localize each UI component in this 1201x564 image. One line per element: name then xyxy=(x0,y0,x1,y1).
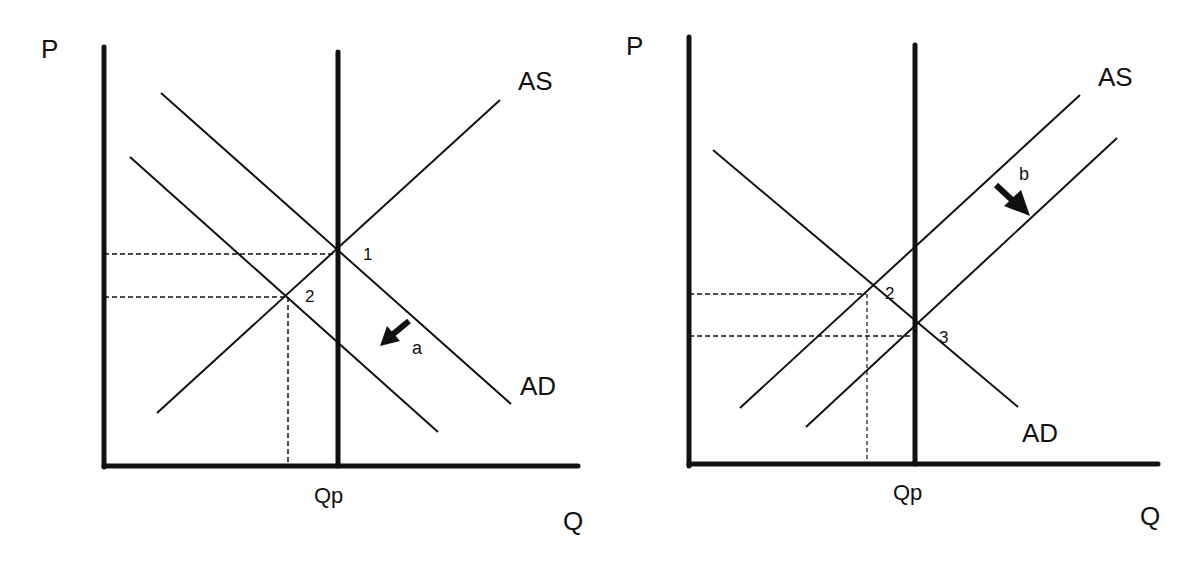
right-x-axis-label: Q xyxy=(1140,501,1160,531)
left-shift-arrow-icon xyxy=(380,321,409,346)
left-qp-label: Qp xyxy=(314,483,343,508)
right-y-axis-label: P xyxy=(626,31,643,61)
left-panel: P Q Qp AS AD 1 2 a xyxy=(41,34,583,536)
left-as-curve xyxy=(157,100,500,413)
right-as-label: AS xyxy=(1098,62,1133,92)
left-arrow-a-label: a xyxy=(412,338,423,358)
right-as1-curve xyxy=(740,95,1080,408)
right-point-2-label: 2 xyxy=(885,284,894,303)
left-point-2-label: 2 xyxy=(305,287,314,306)
left-ad-label: AD xyxy=(520,371,556,401)
right-arrow-b-label: b xyxy=(1019,164,1029,184)
right-panel: P Q Qp AS AD 2 3 b xyxy=(626,31,1160,531)
right-qp-label: Qp xyxy=(893,480,922,505)
right-as2-curve xyxy=(806,138,1117,427)
right-ad-curve xyxy=(713,150,1018,407)
left-point-1-label: 1 xyxy=(363,245,372,264)
right-point-3-label: 3 xyxy=(939,328,948,347)
right-ad-label: AD xyxy=(1022,418,1058,448)
left-x-axis-label: Q xyxy=(563,506,583,536)
as-ad-figure: P Q Qp AS AD 1 2 a P Q Qp AS AD 2 xyxy=(0,0,1201,564)
left-as-label: AS xyxy=(518,66,553,96)
left-y-axis-label: P xyxy=(41,34,58,64)
right-shift-arrow-icon xyxy=(996,185,1030,216)
